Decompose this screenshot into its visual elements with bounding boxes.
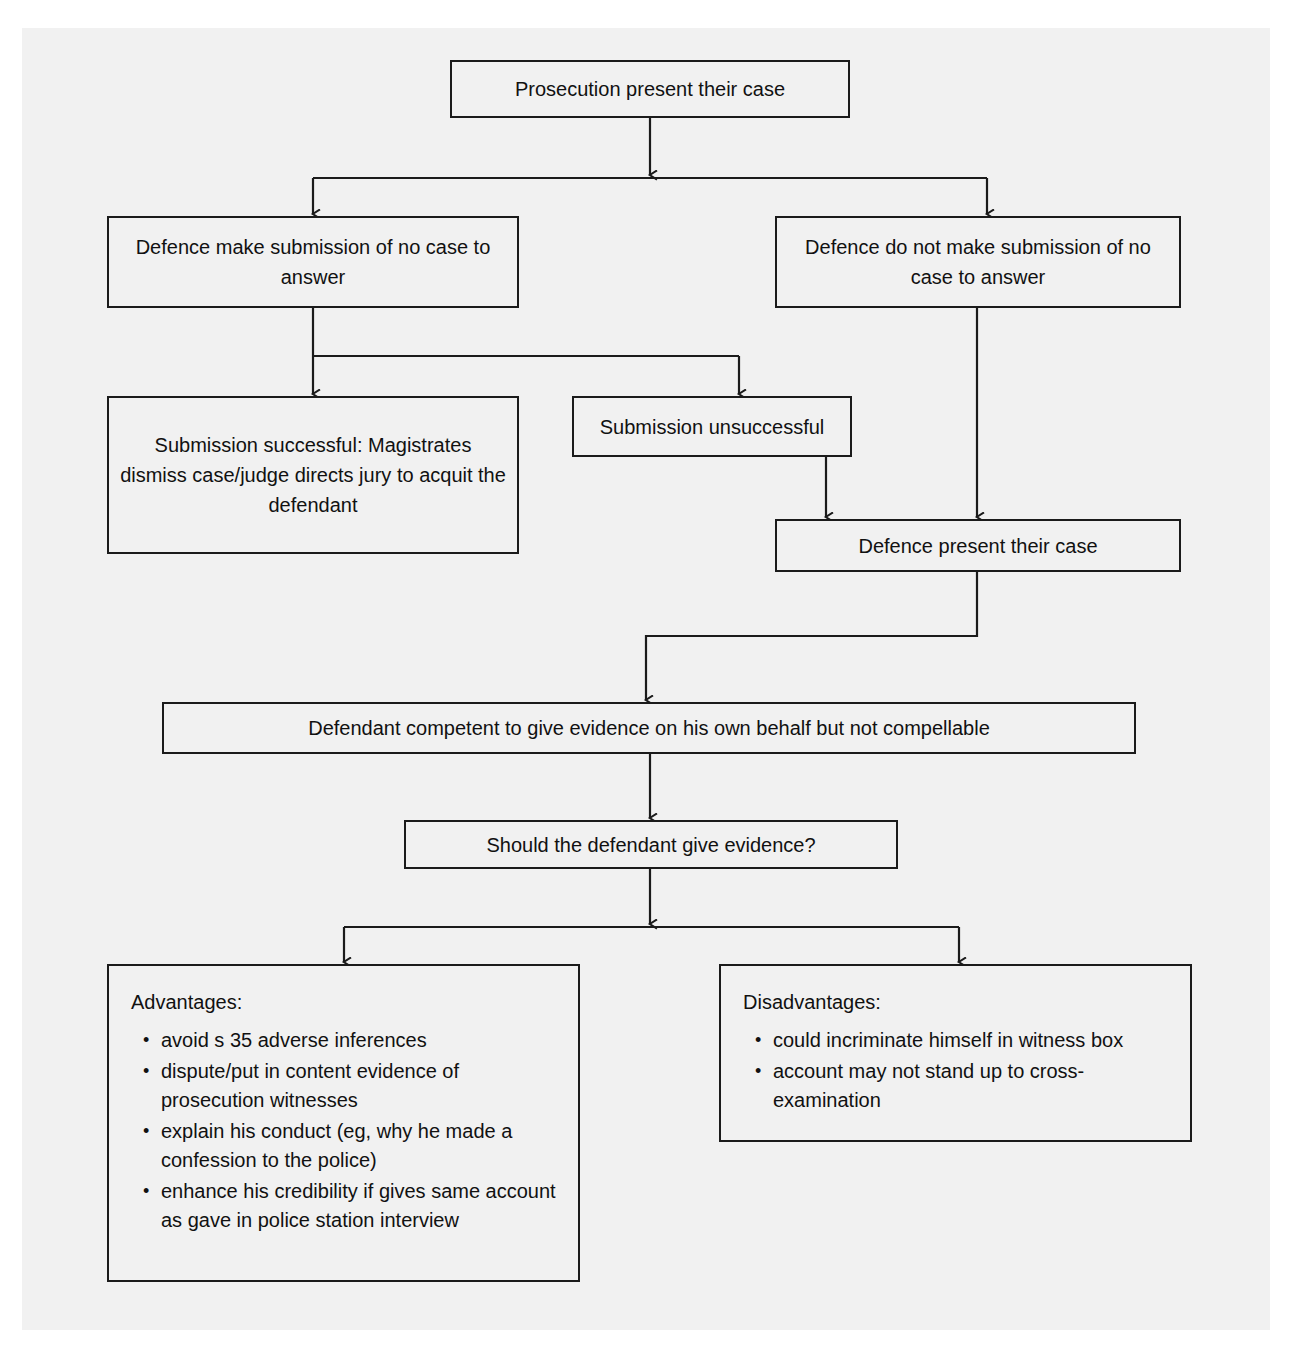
node-submission-successful[interactable]: Submission successful: Magistrates dismi… <box>107 396 519 554</box>
node-defence-no-submission[interactable]: Defence do not make submission of no cas… <box>775 216 1181 308</box>
advantages-list: avoid s 35 adverse inferences dispute/pu… <box>131 1026 560 1235</box>
figure-caption-fragment <box>26 0 1266 24</box>
node-defence-present-case[interactable]: Defence present their case <box>775 519 1181 572</box>
node-submission-successful-label: Submission successful: Magistrates dismi… <box>109 430 517 520</box>
node-defence-make-submission[interactable]: Defence make submission of no case to an… <box>107 216 519 308</box>
list-item: account may not stand up to cross-examin… <box>773 1057 1172 1115</box>
disadvantages-list: could incriminate himself in witness box… <box>743 1026 1172 1115</box>
disadvantages-heading: Disadvantages: <box>743 988 1172 1016</box>
node-prosecution-present-case[interactable]: Prosecution present their case <box>450 60 850 118</box>
list-item: avoid s 35 adverse inferences <box>161 1026 560 1055</box>
node-disadvantages[interactable]: Disadvantages: could incriminate himself… <box>719 964 1192 1142</box>
flowchart-canvas: Prosecution present their case Defence m… <box>0 0 1291 1356</box>
list-item: enhance his credibility if gives same ac… <box>161 1177 560 1235</box>
list-item: explain his conduct (eg, why he made a c… <box>161 1117 560 1175</box>
advantages-heading: Advantages: <box>131 988 560 1016</box>
node-advantages[interactable]: Advantages: avoid s 35 adverse inference… <box>107 964 580 1282</box>
node-should-give-evidence-label: Should the defendant give evidence? <box>476 830 825 860</box>
node-submission-unsuccessful[interactable]: Submission unsuccessful <box>572 396 852 457</box>
node-should-give-evidence[interactable]: Should the defendant give evidence? <box>404 820 898 869</box>
list-item: dispute/put in content evidence of prose… <box>161 1057 560 1115</box>
node-defence-present-case-label: Defence present their case <box>848 531 1107 561</box>
node-submission-unsuccessful-label: Submission unsuccessful <box>590 412 835 442</box>
node-prosecution-present-case-label: Prosecution present their case <box>505 74 795 104</box>
node-defence-no-submission-label: Defence do not make submission of no cas… <box>777 232 1179 292</box>
node-competent-not-compellable-label: Defendant competent to give evidence on … <box>298 713 1000 743</box>
node-defence-make-submission-label: Defence make submission of no case to an… <box>109 232 517 292</box>
list-item: could incriminate himself in witness box <box>773 1026 1172 1055</box>
node-competent-not-compellable[interactable]: Defendant competent to give evidence on … <box>162 702 1136 754</box>
